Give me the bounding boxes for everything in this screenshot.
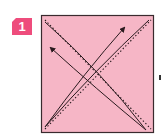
fold-diagram	[0, 0, 162, 136]
next-step-fragment	[159, 75, 161, 80]
